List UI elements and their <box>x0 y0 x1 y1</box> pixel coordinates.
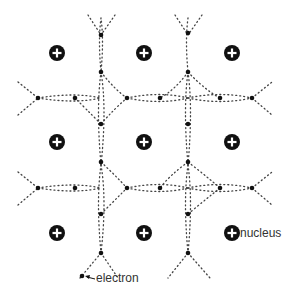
electron-path <box>38 188 101 191</box>
electron <box>36 186 41 191</box>
electron-path <box>127 185 188 189</box>
electron-path <box>75 98 101 124</box>
electron <box>158 96 163 101</box>
electron-path <box>101 72 127 98</box>
electron-path <box>188 165 191 253</box>
electron-path <box>127 95 188 99</box>
electron <box>186 251 191 256</box>
electron-path <box>101 15 115 35</box>
nucleus <box>136 45 152 61</box>
electron <box>99 33 104 38</box>
electron-path <box>100 18 103 72</box>
electron-path <box>18 82 38 98</box>
electron <box>125 186 130 191</box>
electron-path <box>88 15 101 35</box>
nucleus <box>224 45 240 61</box>
electron-path <box>99 72 102 165</box>
electron-path <box>186 165 189 253</box>
electron-path <box>101 72 104 165</box>
electron <box>158 186 163 191</box>
electron-path <box>127 188 188 192</box>
nucleus <box>49 134 65 150</box>
electron <box>73 186 78 191</box>
electron <box>186 31 191 36</box>
electron-path <box>252 172 272 188</box>
electron <box>250 186 255 191</box>
nuclei <box>49 45 240 241</box>
electron-pointer-arrow-icon <box>85 275 90 279</box>
electron-path <box>188 72 220 98</box>
electron <box>186 122 191 127</box>
electron-path <box>101 162 127 188</box>
nucleus <box>136 225 152 241</box>
electron-path <box>188 253 210 278</box>
electron <box>73 96 78 101</box>
nucleus <box>224 225 240 241</box>
metallic-bond-diagram: nucleus electron <box>0 0 299 297</box>
electron-path <box>101 188 127 214</box>
electron-path <box>252 82 272 98</box>
electron-path <box>188 162 220 188</box>
nucleus-label-group: nucleus <box>240 226 281 240</box>
electron-path <box>188 15 202 35</box>
electron-path <box>38 95 101 98</box>
electron-path <box>18 98 38 115</box>
electron-path <box>186 72 189 165</box>
electron-path <box>101 165 104 253</box>
electron-path <box>101 98 127 124</box>
electron <box>125 96 130 101</box>
electron-label-group: electron <box>85 271 139 285</box>
electron-path <box>99 165 102 253</box>
electron-path <box>188 72 191 165</box>
electron <box>186 212 191 217</box>
electron-path <box>252 188 272 205</box>
electron-path <box>38 98 101 101</box>
electron <box>186 160 191 165</box>
electrons <box>36 31 255 279</box>
electron <box>250 96 255 101</box>
electron-path <box>188 188 220 214</box>
nucleus <box>49 45 65 61</box>
electron <box>99 160 104 165</box>
electron <box>99 251 104 256</box>
electron <box>99 122 104 127</box>
electron-path <box>168 253 188 278</box>
nucleus <box>136 134 152 150</box>
electron <box>218 186 223 191</box>
nucleus <box>49 225 65 241</box>
electron <box>186 70 191 75</box>
electron <box>80 274 85 279</box>
electron-label: electron <box>96 271 139 285</box>
electron-path <box>187 18 189 72</box>
electron-path <box>127 98 188 102</box>
electron-path <box>38 185 101 188</box>
electron <box>99 212 104 217</box>
nucleus <box>224 134 240 150</box>
electron <box>218 96 223 101</box>
electron <box>36 96 41 101</box>
electron <box>99 70 104 75</box>
electron-path <box>18 172 38 188</box>
electron-path <box>252 98 272 115</box>
nucleus-label: nucleus <box>240 226 281 240</box>
electron-path <box>18 188 38 205</box>
